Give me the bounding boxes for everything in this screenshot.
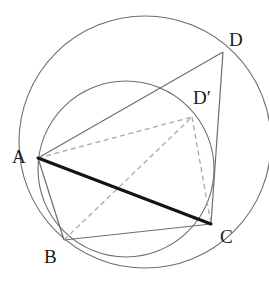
geometry-figure: A B C D D′ bbox=[0, 0, 269, 283]
segment-A-C bbox=[38, 158, 211, 224]
vertex-label-B: B bbox=[44, 247, 57, 266]
segment-B-C bbox=[64, 224, 211, 240]
segment-A-Dprime bbox=[38, 117, 192, 158]
vertex-label-C: C bbox=[220, 227, 233, 246]
segment-A-B bbox=[38, 158, 64, 240]
segment-B-Dprime bbox=[64, 117, 192, 240]
vertex-label-D: D bbox=[229, 30, 243, 49]
segment-Dprime-C bbox=[192, 117, 211, 224]
vertex-label-A: A bbox=[12, 147, 26, 166]
segment-D-C bbox=[211, 52, 223, 224]
vertex-label-Dprime: D′ bbox=[193, 88, 211, 107]
